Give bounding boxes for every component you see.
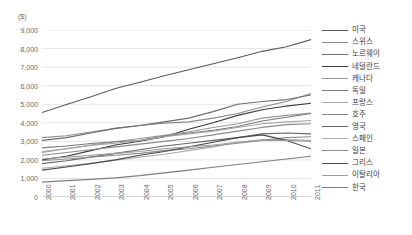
- legend-line-swatch: [322, 126, 348, 127]
- legend-item-label: 호주: [352, 111, 366, 119]
- legend-item[interactable]: 프랑스: [322, 97, 412, 109]
- x-axis-tick-label: 2005: [167, 184, 174, 200]
- legend-item-label: 일본: [352, 147, 366, 155]
- legend-item-label: 네덜란드: [352, 63, 380, 71]
- legend-item[interactable]: 한국: [322, 181, 412, 193]
- legend-item-label: 한국: [352, 184, 366, 192]
- legend-item[interactable]: 영국: [322, 121, 412, 133]
- legend-line-swatch: [322, 150, 348, 151]
- legend-item[interactable]: 호주: [322, 109, 412, 121]
- legend-item-label: 프랑스: [352, 99, 373, 107]
- legend-line-swatch: [322, 30, 348, 31]
- legend-line-swatch: [322, 114, 348, 115]
- legend-item-label: 노르웨이: [352, 50, 380, 58]
- x-axis-tick-label: 2007: [216, 184, 223, 200]
- legend-item[interactable]: 노르웨이: [322, 48, 412, 60]
- x-axis-tick-label: 2004: [143, 184, 150, 200]
- legend-line-swatch: [322, 42, 348, 43]
- legend-item-label: 스페인: [352, 135, 373, 143]
- legend-line-swatch: [322, 78, 348, 79]
- x-axis-tick-label: 2006: [192, 184, 199, 200]
- legend-item[interactable]: 스페인: [322, 133, 412, 145]
- legend-line-swatch: [322, 175, 348, 176]
- legend: 미국스위스노르웨이네덜란드캐나다독일프랑스호주영국스페인일본그리스이탈리아한국: [322, 24, 412, 193]
- legend-line-swatch: [322, 138, 348, 139]
- legend-line-swatch: [322, 163, 348, 164]
- legend-item[interactable]: 이탈리아: [322, 169, 412, 181]
- legend-item[interactable]: 미국: [322, 24, 412, 36]
- x-axis-tick-label: 2001: [69, 184, 76, 200]
- legend-item-label: 독일: [352, 87, 366, 95]
- legend-item-label: 이탈리아: [352, 171, 380, 179]
- legend-line-swatch: [322, 102, 348, 103]
- legend-item[interactable]: 스위스: [322, 36, 412, 48]
- line-chart: ($) 9,0008,0007,0006,0005,0004,0003,0002…: [0, 0, 412, 235]
- legend-item[interactable]: 일본: [322, 145, 412, 157]
- x-axis-tick-label: 2009: [265, 184, 272, 200]
- x-axis-tick-label: 2008: [241, 184, 248, 200]
- legend-item-label: 영국: [352, 123, 366, 131]
- legend-item-label: 캐나다: [352, 75, 373, 83]
- legend-item[interactable]: 그리스: [322, 157, 412, 169]
- x-axis-tick-label: 2002: [94, 184, 101, 200]
- legend-item-label: 미국: [352, 26, 366, 34]
- legend-line-swatch: [322, 187, 348, 188]
- legend-item[interactable]: 네덜란드: [322, 60, 412, 72]
- legend-item-label: 그리스: [352, 159, 373, 167]
- x-axis-tick-label: 2003: [118, 184, 125, 200]
- legend-line-swatch: [322, 90, 348, 91]
- legend-item[interactable]: 캐나다: [322, 72, 412, 84]
- x-axis-tick-label: 2000: [45, 184, 52, 200]
- x-axis-tick-label: 2010: [290, 184, 297, 200]
- legend-line-swatch: [322, 66, 348, 67]
- legend-item[interactable]: 독일: [322, 84, 412, 96]
- legend-item-label: 스위스: [352, 38, 373, 46]
- legend-line-swatch: [322, 54, 348, 55]
- x-axis-tick-label: 2011: [314, 185, 321, 200]
